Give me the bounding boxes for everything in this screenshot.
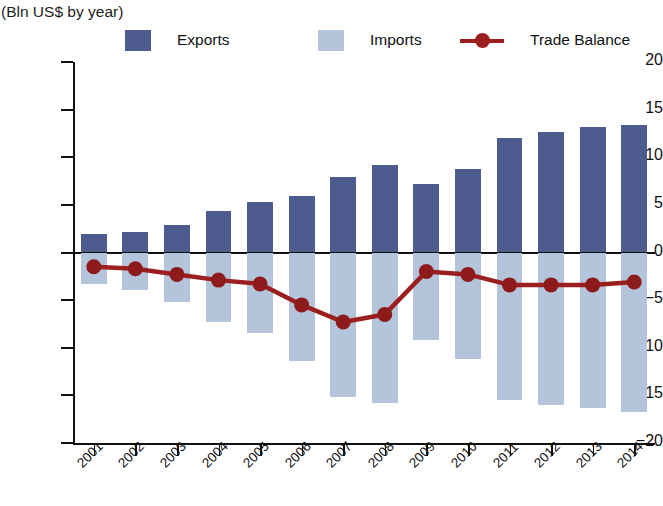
x-axis-line [73,443,655,445]
trade-balance-point [86,259,101,274]
legend-label-imports: Imports [370,31,422,49]
chart-subtitle: (Bln US$ by year) [1,3,123,21]
trade-balance-line [73,62,655,443]
y-axis-tick [61,394,73,396]
trade-balance-point [294,297,309,312]
trade-balance-point [128,261,143,276]
legend-item-trade-balance[interactable]: Trade Balance [460,28,630,52]
trade-balance-point [585,277,600,292]
y-axis-tick [61,442,73,444]
trade-balance-point [169,267,184,282]
y-axis-tick [61,61,73,63]
legend-label-trade-balance: Trade Balance [530,31,630,49]
trade-balance-point [460,267,475,282]
trade-balance-point [502,277,517,292]
trade-balance-point [419,264,434,279]
y-axis-tick [61,109,73,111]
legend-swatch-exports-icon [125,30,151,51]
trade-balance-point [253,276,268,291]
trade-balance-point [211,273,226,288]
legend-item-imports[interactable]: Imports [318,28,422,52]
y-axis-tick [61,204,73,206]
trade-balance-point [544,277,559,292]
chart-legend: ExportsImportsTrade Balance [0,28,663,52]
trade-balance-point [627,275,642,290]
y-axis-tick [61,156,73,158]
trade-balance-chart: (Bln US$ by year) ExportsImportsTrade Ba… [0,0,663,506]
y-axis-tick [61,252,73,254]
legend-label-exports: Exports [177,31,230,49]
legend-item-exports[interactable]: Exports [125,28,230,52]
trade-balance-point [377,307,392,322]
y-axis-tick [61,299,73,301]
y-axis-tick [61,347,73,349]
trade-balance-point [336,315,351,330]
legend-swatch-imports-icon [318,30,344,51]
legend-line-marker-icon [460,30,504,51]
